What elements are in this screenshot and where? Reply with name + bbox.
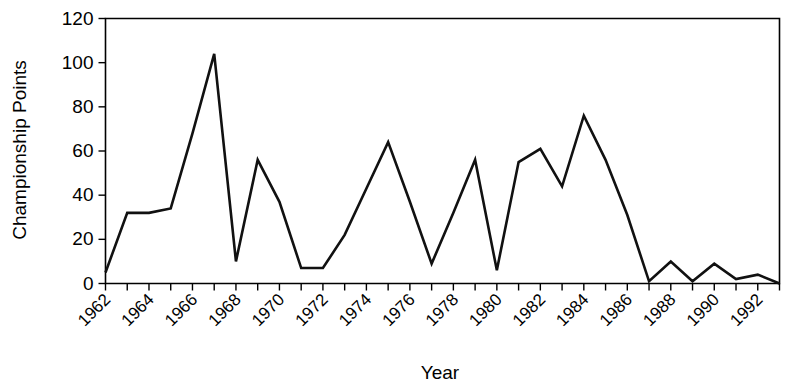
x-tick-label: 1964 — [118, 290, 158, 330]
data-series-line — [106, 54, 780, 284]
y-tick-label: 60 — [72, 140, 93, 161]
x-axis-ticks — [106, 284, 780, 291]
x-tick-label: 1966 — [161, 290, 201, 330]
x-tick-label: 1988 — [639, 290, 679, 330]
x-tick-label: 1984 — [552, 290, 592, 330]
y-tick-label: 120 — [62, 8, 94, 29]
y-tick-label: 80 — [72, 96, 93, 117]
x-axis-title: Year — [421, 362, 460, 383]
y-tick-label: 100 — [62, 52, 94, 73]
x-tick-label: 1990 — [683, 290, 723, 330]
x-tick-label: 1978 — [422, 290, 462, 330]
x-tick-label: 1962 — [74, 290, 114, 330]
x-axis-tick-labels: 1962196419661968197019721974197619781980… — [74, 290, 766, 330]
x-tick-label: 1980 — [465, 290, 505, 330]
x-tick-label: 1972 — [292, 290, 332, 330]
x-tick-label: 1986 — [596, 290, 636, 330]
y-axis-tick-labels: 020406080100120 — [62, 8, 94, 294]
x-tick-label: 1974 — [335, 290, 375, 330]
plot-border — [106, 19, 780, 284]
x-tick-label: 1968 — [205, 290, 245, 330]
y-tick-label: 40 — [72, 184, 93, 205]
chart-figure: 020406080100120 196219641966196819701972… — [0, 0, 791, 390]
x-tick-label: 1976 — [379, 290, 419, 330]
x-tick-label: 1970 — [248, 290, 288, 330]
line-chart: 020406080100120 196219641966196819701972… — [0, 0, 791, 390]
x-tick-label: 1982 — [509, 290, 549, 330]
y-axis-title: Championship Points — [9, 60, 30, 240]
x-tick-label: 1992 — [726, 290, 766, 330]
y-tick-label: 20 — [72, 228, 93, 249]
y-tick-label: 0 — [83, 273, 94, 294]
y-axis-ticks — [99, 19, 106, 284]
plot-frame — [106, 19, 780, 284]
